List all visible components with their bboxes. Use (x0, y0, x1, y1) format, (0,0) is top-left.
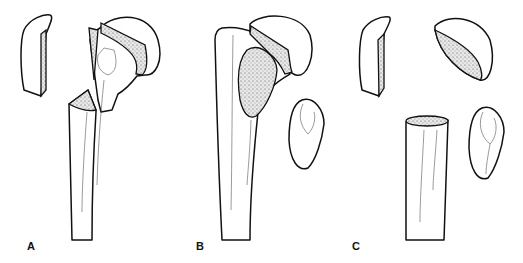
panel-a (21, 15, 160, 240)
panel-b (215, 16, 324, 240)
greater-tuberosity-fragment (21, 15, 52, 96)
panel-label-b: B (196, 240, 204, 252)
lesser-tuberosity-fragment (469, 107, 504, 178)
fracture-illustration (0, 0, 523, 263)
panel-label-c: C (352, 240, 360, 252)
humeral-head-fragment (435, 18, 492, 80)
greater-tuberosity-fragment (359, 17, 390, 96)
lesser-tuberosity-fragment (289, 99, 324, 168)
panel-c (359, 17, 504, 240)
panel-label-a: A (27, 240, 35, 252)
shaft-fragment (406, 116, 448, 240)
humeral-head-fragment (89, 17, 160, 112)
